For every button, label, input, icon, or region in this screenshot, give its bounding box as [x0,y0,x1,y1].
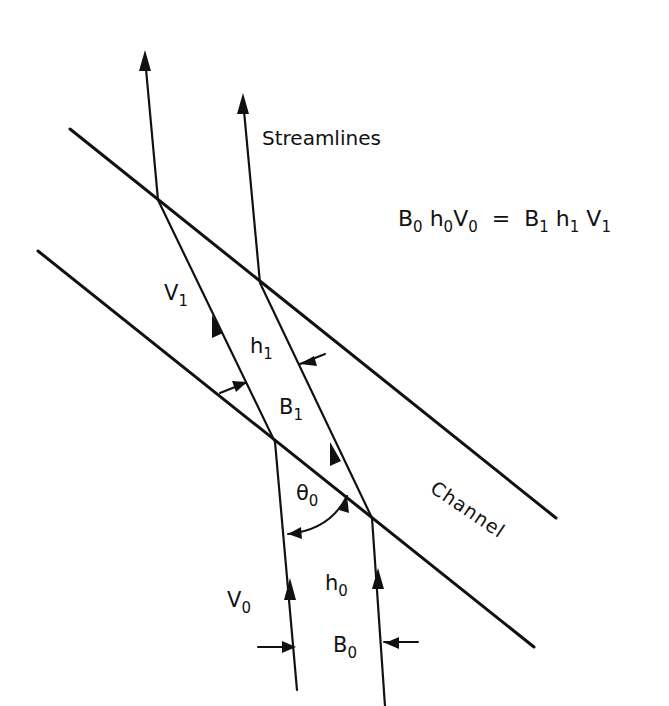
arrow-flow-icon [212,315,223,338]
h1-label: h1 [250,336,273,362]
arrow-left-icon [288,527,302,539]
v0-label: V0 [227,590,251,616]
eq-h1-sub: 1 [570,218,580,236]
arrow-up-icon [139,50,151,71]
arrow-flow-icon [330,442,341,466]
eq-v0: V [453,206,468,231]
eq-v1-sub: 1 [601,218,611,236]
h0-base: h [325,571,338,595]
eq-b1-sub: 1 [539,218,549,236]
eq-h0-sub: 0 [444,218,454,236]
streamlines-label: Streamlines [262,128,381,148]
b0-base: B [333,633,347,657]
arrow-up-icon [284,578,296,600]
channel-lower-bank [38,251,534,647]
eq-equals: = [492,206,510,231]
diagram-canvas [0,0,669,706]
continuity-equation: B0 h0V0 = B1 h1 V1 [398,208,611,235]
arrow-up-icon [372,568,384,589]
h0-label: h0 [325,573,348,599]
b0-sub: 0 [347,644,357,662]
eq-b0: B [398,206,413,231]
v1-label: V1 [164,283,188,309]
b1-base: B [279,395,293,419]
v1-sub: 1 [178,292,188,310]
v0-base: V [227,588,241,612]
streamline-right [243,100,385,706]
theta0-label: θ0 [296,483,318,509]
b1-label: B1 [279,397,303,423]
v1-base: V [164,281,178,305]
eq-h0: h [430,206,444,231]
h1-base: h [250,334,263,358]
eq-h1: h [556,206,570,231]
eq-b0-sub: 0 [413,218,423,236]
arrow-right-icon [232,381,247,392]
theta0-base: θ [296,481,309,505]
theta0-sub: 0 [309,492,319,510]
b0-label: B0 [333,635,357,661]
arrow-left-icon [385,637,399,649]
v0-sub: 0 [241,599,251,617]
h0-sub: 0 [338,582,348,600]
eq-v0-sub: 0 [468,218,478,236]
eq-v1: V [586,206,601,231]
channel-upper-bank [70,129,556,518]
h1-sub: 1 [263,345,273,363]
arrow-up-icon [237,93,249,114]
streamline-left [145,58,297,690]
eq-b1: B [524,206,539,231]
b1-sub: 1 [293,406,303,424]
